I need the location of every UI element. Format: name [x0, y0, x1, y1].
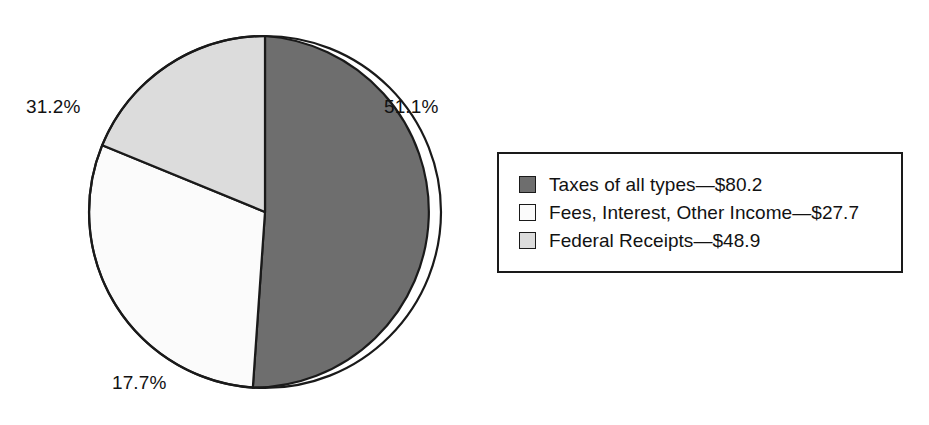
pie-svg	[86, 33, 444, 391]
legend-label-fees: Fees, Interest, Other Income—$27.7	[549, 203, 859, 222]
pie-label-taxes-percent: 51.1%	[384, 96, 438, 118]
pie-label-fees-percent: 17.7%	[112, 372, 166, 394]
legend: Taxes of all types—$80.2 Fees, Interest,…	[497, 152, 903, 273]
legend-label-federal-receipts: Federal Receipts—$48.9	[549, 231, 760, 250]
pie-slice-taxes[interactable]	[253, 36, 429, 388]
legend-swatch-federal-receipts-icon	[519, 232, 536, 249]
legend-item-taxes[interactable]: Taxes of all types—$80.2	[519, 172, 859, 197]
legend-swatch-fees-icon	[519, 204, 536, 221]
legend-item-fees[interactable]: Fees, Interest, Other Income—$27.7	[519, 200, 859, 225]
pie-chart-figure: 51.1% 31.2% 17.7% Taxes of all types—$80…	[0, 0, 929, 425]
pie-chart-graphic	[86, 33, 444, 391]
pie-label-federal-receipts-percent: 31.2%	[26, 96, 80, 118]
legend-swatch-taxes-icon	[519, 176, 536, 193]
legend-label-taxes: Taxes of all types—$80.2	[549, 175, 762, 194]
legend-item-federal-receipts[interactable]: Federal Receipts—$48.9	[519, 228, 859, 253]
legend-items: Taxes of all types—$80.2 Fees, Interest,…	[519, 172, 859, 253]
